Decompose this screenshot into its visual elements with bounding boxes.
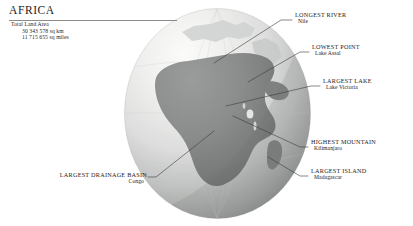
callout-lowest-point: LOWEST POINT Lake Assal — [312, 43, 360, 57]
callout-largest-island-head: LARGEST ISLAND — [311, 167, 366, 174]
callout-highest-mountain-head: HIGHEST MOUNTAIN — [311, 138, 376, 145]
callout-drainage-basin: LARGEST DRAINAGE BASIN Congo — [40, 171, 147, 185]
callout-lowest-point-head: LOWEST POINT — [312, 43, 360, 50]
lake-victoria-marker — [247, 109, 254, 118]
land-area-sq-km: 30 343 578 sq km — [11, 28, 69, 35]
africa-infographic: AFRICA Total Land Area 30 343 578 sq km … — [0, 0, 413, 226]
lake-albert-marker — [243, 103, 246, 109]
callout-largest-lake-sub: Lake Victoria — [323, 84, 372, 91]
land-area-sq-miles: 11 715 655 sq miles — [11, 34, 69, 41]
callout-drainage-basin-head: LARGEST DRAINAGE BASIN — [40, 171, 147, 178]
callout-highest-mountain: HIGHEST MOUNTAIN Kilimanjaro — [311, 138, 376, 152]
callout-largest-lake-head: LARGEST LAKE — [323, 77, 372, 84]
callout-largest-island-sub: Madagascar — [311, 174, 366, 181]
globe-illustration — [124, 8, 311, 219]
callout-longest-river-sub: Nile — [295, 18, 346, 25]
land-area-label: Total Land Area — [11, 21, 69, 28]
globe-svg — [124, 8, 311, 219]
callout-lowest-point-sub: Lake Assal — [312, 50, 360, 57]
callout-largest-lake: LARGEST LAKE Lake Victoria — [323, 77, 372, 91]
callout-highest-mountain-sub: Kilimanjaro — [311, 145, 376, 152]
callout-longest-river-head: LONGEST RIVER — [295, 11, 346, 18]
page-title: AFRICA — [9, 4, 184, 17]
callout-largest-island: LARGEST ISLAND Madagascar — [311, 167, 366, 181]
callout-drainage-basin-sub: Congo — [40, 178, 147, 185]
continent-name: AFRICA — [9, 4, 184, 17]
total-land-area-block: Total Land Area 30 343 578 sq km 11 715 … — [11, 21, 69, 41]
callout-longest-river: LONGEST RIVER Nile — [295, 11, 346, 25]
